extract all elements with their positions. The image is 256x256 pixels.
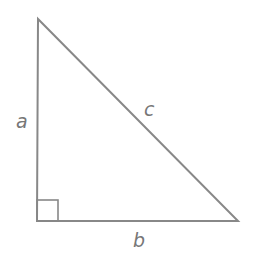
right-triangle-diagram: a c b [0,0,256,256]
triangle-shape [37,19,238,221]
right-angle-marker [37,200,58,221]
side-c-label: c [144,98,155,120]
side-b-label: b [133,229,145,251]
side-a-label: a [16,110,28,132]
